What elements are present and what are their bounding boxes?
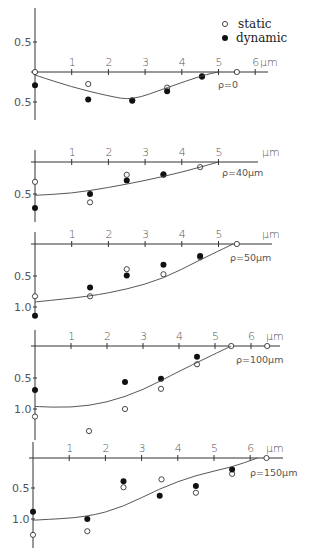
rho-label: ρ=150μm xyxy=(250,467,297,478)
rho-label: ρ=50μm xyxy=(230,252,271,263)
dynamic-point xyxy=(124,273,130,279)
static-point xyxy=(159,477,164,482)
y-tick-label: 0.5 xyxy=(14,372,32,385)
dynamic-point xyxy=(32,82,38,88)
x-tick-label: 3 xyxy=(142,56,149,69)
x-tick-label: 5 xyxy=(216,146,223,159)
x-tick-label: 1 xyxy=(68,330,75,343)
x-tick-label: 5 xyxy=(211,442,218,455)
x-tick-label: 5 xyxy=(216,56,223,69)
x-unit-label: μm xyxy=(266,442,284,455)
x-tick-label: 4 xyxy=(179,56,186,69)
static-point xyxy=(121,485,126,490)
x-tick-label: 4 xyxy=(179,228,186,241)
fit-curve xyxy=(35,346,231,407)
static-point xyxy=(122,406,127,411)
y-tick-label: 1.0 xyxy=(14,403,32,416)
static-point xyxy=(86,81,91,86)
static-point xyxy=(32,69,37,74)
static-point xyxy=(234,241,239,246)
y-tick-label: 1.0 xyxy=(12,513,30,526)
fit-curve xyxy=(35,72,219,99)
static-point xyxy=(86,428,91,433)
dynamic-point xyxy=(32,387,38,393)
dynamic-point xyxy=(193,483,199,489)
dynamic-point xyxy=(85,97,91,103)
panel-rho-40: 12345μm0.5ρ=40μm xyxy=(14,146,280,222)
dynamic-point xyxy=(122,379,128,385)
static-point xyxy=(158,386,163,391)
legend-dynamic-label: dynamic xyxy=(236,31,288,45)
dynamic-point xyxy=(87,284,93,290)
dynamic-point xyxy=(121,478,127,484)
x-tick-label: 4 xyxy=(175,442,182,455)
static-point xyxy=(32,294,37,299)
dynamic-marker-icon xyxy=(222,35,228,41)
y-tick-label: 0.5 xyxy=(14,270,32,283)
x-tick-label: 3 xyxy=(140,330,147,343)
dynamic-point xyxy=(32,313,38,319)
rho-label: ρ=40μm xyxy=(222,167,263,178)
y-tick-label: 1.0 xyxy=(14,301,32,314)
static-point xyxy=(30,532,35,537)
dynamic-point xyxy=(30,509,36,515)
x-tick-label: 6 xyxy=(248,330,255,343)
x-unit-label: μm xyxy=(262,228,280,241)
x-tick-label: 2 xyxy=(105,228,112,241)
fit-curve xyxy=(35,244,233,302)
static-point xyxy=(161,272,166,277)
x-tick-label: 6 xyxy=(252,56,259,69)
x-tick-label: 1 xyxy=(66,442,73,455)
y-tick-label: 0.5 xyxy=(12,482,30,495)
x-tick-label: 6 xyxy=(247,442,254,455)
dynamic-point xyxy=(124,178,130,184)
x-tick-label: 3 xyxy=(139,442,146,455)
x-tick-label: 5 xyxy=(216,228,223,241)
dynamic-point xyxy=(32,205,38,211)
x-tick-label: 1 xyxy=(69,56,76,69)
static-point xyxy=(85,529,90,534)
dynamic-point xyxy=(194,354,200,360)
dynamic-point xyxy=(84,516,90,522)
panel-rho-150: 123456μm0.51.0ρ=150μm xyxy=(12,442,297,548)
y-tick-label: 0.5 xyxy=(14,36,32,49)
rho-label: ρ=100μm xyxy=(236,354,283,365)
static-marker-icon xyxy=(222,21,227,26)
static-point xyxy=(264,455,269,460)
chart-canvas: static dynamic 123456μm0.50.5ρ=0 12345μm… xyxy=(0,0,313,560)
dynamic-point xyxy=(87,191,93,197)
static-point xyxy=(32,179,37,184)
static-point xyxy=(32,414,37,419)
panel-rho-50: 12345μm0.51.0ρ=50μm xyxy=(14,228,280,319)
x-tick-label: 4 xyxy=(176,330,183,343)
x-tick-label: 5 xyxy=(212,330,219,343)
x-tick-label: 1 xyxy=(69,228,76,241)
dynamic-point xyxy=(197,253,203,259)
x-unit-label: μm xyxy=(260,56,278,69)
static-point xyxy=(193,490,198,495)
fit-curve xyxy=(33,458,257,520)
x-tick-label: 3 xyxy=(142,146,149,159)
x-unit-label: μm xyxy=(262,146,280,159)
x-tick-label: 2 xyxy=(105,56,112,69)
legend-static-label: static xyxy=(238,17,272,31)
static-point xyxy=(124,172,129,177)
dynamic-point xyxy=(157,493,163,499)
x-tick-label: 1 xyxy=(69,146,76,159)
x-tick-label: 3 xyxy=(142,228,149,241)
x-tick-label: 2 xyxy=(105,146,112,159)
static-point xyxy=(87,200,92,205)
x-tick-label: 2 xyxy=(104,330,111,343)
static-point xyxy=(234,69,239,74)
x-tick-label: 2 xyxy=(102,442,109,455)
static-point xyxy=(265,343,270,348)
x-tick-label: 4 xyxy=(179,146,186,159)
figure: static dynamic 123456μm0.50.5ρ=0 12345μm… xyxy=(0,0,313,560)
legend: static dynamic xyxy=(222,17,288,45)
static-point xyxy=(124,267,129,272)
dynamic-point xyxy=(164,88,170,94)
panel-rho-100: 123456μm0.51.0ρ=100μm xyxy=(14,330,284,440)
rho-label: ρ=0 xyxy=(218,79,238,90)
y-tick-label: 0.5 xyxy=(14,188,32,201)
y-tick-label: 0.5 xyxy=(14,96,32,109)
